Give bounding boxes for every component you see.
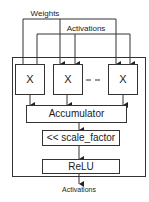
- activations-input-label: Activations: [67, 25, 106, 33]
- scale-factor-shift-block: << scale_factor: [42, 130, 120, 146]
- activations-output-label: Activations: [62, 186, 96, 193]
- weights-label: Weights: [31, 10, 60, 18]
- multiplier-1: X: [15, 64, 45, 95]
- multiplier-3: X: [108, 64, 138, 95]
- multiplier-2: X: [53, 64, 83, 95]
- accumulator-block: Accumulator: [26, 105, 127, 123]
- relu-block: ReLU: [42, 159, 120, 174]
